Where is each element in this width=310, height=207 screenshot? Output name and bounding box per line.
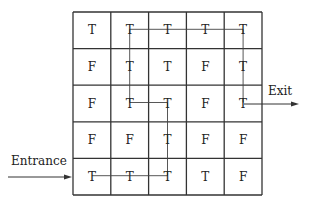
grid-cell-r0c3: T (201, 23, 209, 37)
grid-cell-r1c4: T (239, 60, 247, 74)
exit-label: Exit (268, 84, 292, 98)
grid-cell-r0c0: T (88, 23, 96, 37)
grid-cell-r1c2: T (163, 60, 171, 74)
grid-cell-r3c0: F (88, 133, 96, 147)
grid-cell-r4c4: F (239, 170, 247, 184)
grid-cell-r3c4: F (239, 133, 247, 147)
grid-cell-r4c1: T (126, 170, 134, 184)
exit-arrow-head-icon (291, 102, 299, 107)
grid-cell-r4c3: T (201, 170, 209, 184)
grid-cell-r3c3: F (201, 133, 209, 147)
grid-cell-r2c1: T (126, 97, 134, 111)
grid-cell-r1c1: T (126, 60, 134, 74)
grid-cell-r2c3: F (201, 97, 209, 111)
grid-cell-r2c2: T (163, 97, 171, 111)
grid-cell-r1c3: F (201, 60, 209, 74)
entrance-label: Entrance (11, 154, 67, 168)
grid-cell-r4c2: T (163, 170, 171, 184)
grid-cell-r3c2: T (163, 133, 171, 147)
maze-diagram: TTTTTFTTFTFTTFTFFTFFTTTTF Entrance Exit (0, 0, 310, 207)
grid-cell-r3c1: F (126, 133, 134, 147)
entrance-arrow-head-icon (64, 175, 72, 180)
grid-cell-r0c1: T (126, 23, 134, 37)
grid-cell-r4c0: T (88, 170, 96, 184)
grid-cell-r1c0: F (88, 60, 96, 74)
grid-cell-r2c0: F (88, 97, 96, 111)
grid-cell-r0c2: T (163, 23, 171, 37)
grid-cell-r0c4: T (239, 23, 247, 37)
